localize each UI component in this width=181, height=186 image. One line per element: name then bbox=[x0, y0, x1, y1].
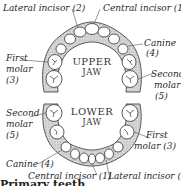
primary-teeth-diagram: Lateral incisor (2) Central incisor (1) … bbox=[0, 0, 181, 186]
caption: Primary teeth bbox=[0, 178, 85, 186]
upper-second-molar-number: (5) bbox=[155, 91, 168, 101]
lower-second-molar-label: Second bbox=[6, 108, 40, 118]
lower-jaw-title: LOWER JAW bbox=[70, 106, 114, 128]
lower-first-molar-label-2: molar (3) bbox=[134, 141, 176, 151]
upper-canine-number: (4) bbox=[146, 48, 159, 58]
upper-first-molar-label: First bbox=[6, 53, 28, 63]
lower-second-molar-label-2: molar bbox=[6, 119, 33, 129]
upper-first-molar-label-2: molar bbox=[6, 64, 33, 74]
lower-lateral-incisor-label: Lateral incisor (2) bbox=[108, 171, 181, 181]
upper-lateral-incisor-label: Lateral incisor (2) bbox=[3, 3, 85, 13]
upper-jaw-title-line2: JAW bbox=[70, 67, 114, 78]
upper-second-molar-label: Second bbox=[151, 69, 181, 79]
lower-canine-label: Canine (4) bbox=[6, 159, 54, 169]
lower-second-molar-number: (5) bbox=[6, 130, 19, 140]
upper-central-incisor-label: Central incisor (1) bbox=[103, 3, 181, 13]
lower-jaw-title-line1: LOWER bbox=[70, 106, 114, 117]
upper-second-molar-label-2: molar bbox=[154, 80, 181, 90]
upper-first-molar-number: (3) bbox=[6, 75, 19, 85]
upper-jaw-title-line1: UPPER bbox=[70, 56, 114, 67]
lower-jaw-title-line2: JAW bbox=[70, 117, 114, 128]
upper-jaw-title: UPPER JAW bbox=[70, 56, 114, 78]
upper-canine-label: Canine bbox=[144, 38, 176, 48]
lower-first-molar-label: First bbox=[146, 130, 168, 140]
